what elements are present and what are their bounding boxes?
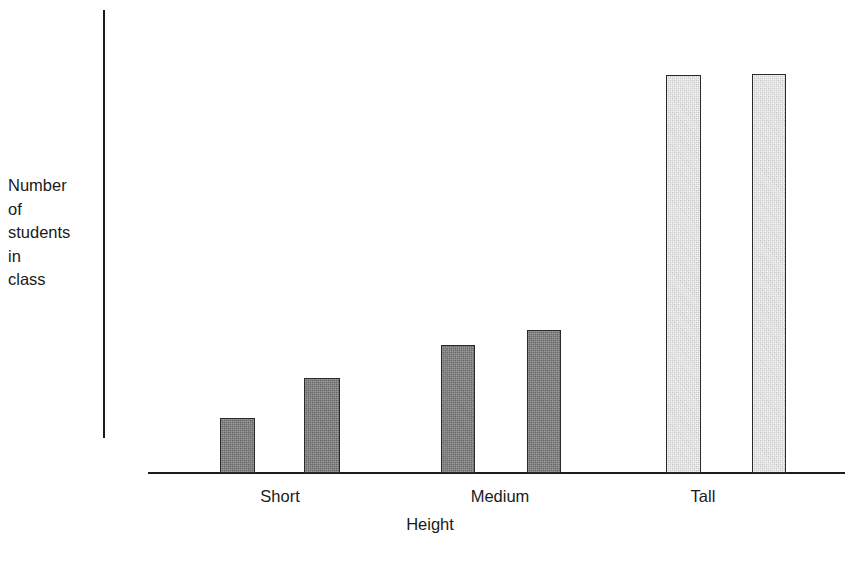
chart-canvas: Number of students in class Height Short… <box>0 0 854 578</box>
y-axis-line <box>103 10 105 438</box>
x-tick-label-medium: Medium <box>471 487 530 506</box>
bar-short-1 <box>220 418 255 473</box>
bar-medium-2 <box>527 330 561 473</box>
x-axis-title: Height <box>406 515 454 533</box>
bar-medium-1 <box>441 345 475 473</box>
x-tick-label-short: Short <box>260 487 299 506</box>
x-tick-label-tall: Tall <box>691 487 716 506</box>
bar-tall-2 <box>752 74 786 473</box>
x-axis-title-wrap: Height <box>0 515 854 534</box>
bar-tall-1 <box>666 75 701 473</box>
y-axis-title: Number of students in class <box>8 174 100 292</box>
bar-short-2 <box>304 378 340 473</box>
